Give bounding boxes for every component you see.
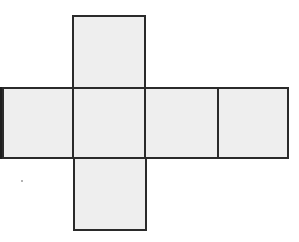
face-left	[2, 87, 74, 159]
stray-mark	[21, 180, 23, 182]
face-top	[72, 15, 146, 89]
face-back	[217, 87, 289, 159]
face-right	[144, 87, 219, 159]
face-bottom	[73, 157, 147, 231]
face-front	[72, 87, 146, 159]
